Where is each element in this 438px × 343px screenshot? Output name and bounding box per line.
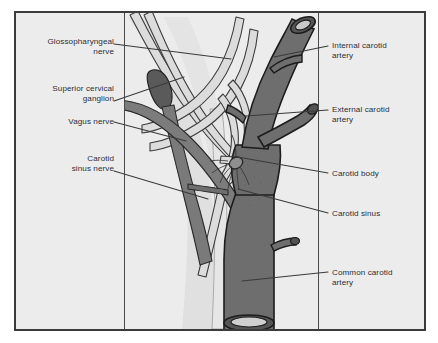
common-carotid-artery-shape [224,193,274,329]
label-vagus-nerve: Vagus nerve [22,117,114,127]
figure-plate: Glossopharyngeal nerve Superior cervical… [14,11,426,331]
label-superior-cervical-ganglion: Superior cervical ganglion [22,84,114,104]
label-external-carotid-artery: External carotid artery [332,105,424,125]
label-glossopharyngeal-nerve: Glossopharyngeal nerve [22,37,114,57]
carotid-illustration [124,13,318,329]
column-rule-right [318,13,319,329]
common-carotid-lumen [231,317,267,327]
anatomy-figure: Glossopharyngeal nerve Superior cervical… [0,0,438,343]
label-internal-carotid-artery: Internal carotid artery [332,41,424,61]
illustration-panel [124,13,318,329]
label-common-carotid-artery: Common carotid artery [332,268,424,288]
label-carotid-sinus-nerve: Carotid sinus nerve [22,154,114,174]
label-carotid-sinus: Carotid sinus [332,209,424,219]
column-rule-left [124,13,125,329]
label-carotid-body: Carotid body [332,169,424,179]
artery-branch-stub-lower-end [291,238,300,245]
